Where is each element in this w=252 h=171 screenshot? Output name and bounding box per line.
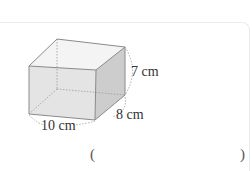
rectangular-prism-figure	[0, 0, 252, 171]
front-face	[29, 66, 96, 120]
answer-close-paren: )	[240, 147, 245, 162]
width-label: 8 cm	[116, 108, 144, 122]
answer-open-paren: (	[90, 147, 95, 162]
length-arc-right	[73, 121, 95, 125]
height-label: 7 cm	[131, 65, 159, 79]
answer-blank[interactable]	[100, 147, 235, 163]
length-label: 10 cm	[41, 119, 76, 133]
